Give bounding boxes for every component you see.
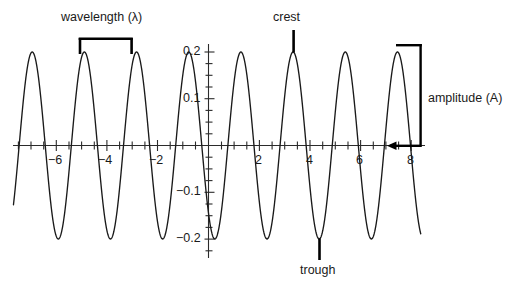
trough-label: trough — [300, 264, 335, 277]
x-tick-label-minus2: −2 — [149, 154, 163, 167]
y-tick-label-0p2: 0.2 — [183, 45, 200, 58]
wavelength-label: wavelength (λ) — [61, 11, 142, 24]
wave-plot-svg — [0, 0, 514, 285]
y-tick-label-minus0p1: −0.1 — [176, 185, 201, 198]
amplitude-label: amplitude (A) — [428, 92, 502, 105]
x-tick-label-2: 2 — [255, 154, 262, 167]
x-tick-label-4: 4 — [306, 154, 313, 167]
crest-label: crest — [273, 11, 300, 24]
x-tick-label-minus4: −4 — [98, 154, 112, 167]
wave-diagram-figure: −6 −4 −2 2 4 6 8 0.2 0.1 −0.1 −0.2 wavel… — [0, 0, 514, 285]
wavelength-bracket — [79, 38, 133, 54]
y-tick-label-0p1: 0.1 — [183, 92, 200, 105]
amplitude-arrowhead — [387, 142, 397, 150]
y-tick-label-minus0p2: −0.2 — [176, 232, 201, 245]
x-tick-label-8: 8 — [407, 154, 414, 167]
x-tick-label-6: 6 — [356, 154, 363, 167]
x-tick-label-minus6: −6 — [48, 154, 62, 167]
